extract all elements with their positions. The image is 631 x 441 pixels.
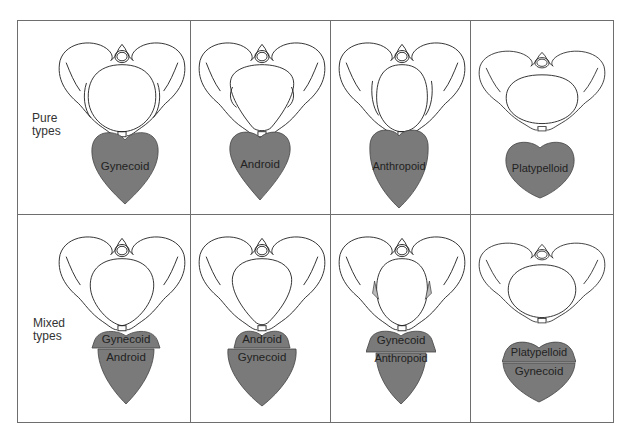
heart-shape-platypelloid: Platypelloid	[504, 140, 576, 200]
mixed-bottom-label: Gynecoid	[226, 351, 298, 363]
pelvis-mixed-illustration	[56, 224, 188, 336]
cell-pure-gynecoid: Gynecoid	[50, 22, 190, 216]
pelvis-platypelloid-illustration	[476, 30, 608, 142]
cell-mixed-gynecoid-anthropoid: Gynecoid Anthropoid	[330, 216, 470, 410]
pelvis-anthropoid-illustration	[336, 30, 468, 142]
cell-pure-anthropoid: Anthropoid	[330, 22, 470, 216]
pelvis-type-label: Android	[228, 158, 292, 170]
pelvis-mixed-illustration	[196, 224, 328, 336]
mixed-top-label: Gynecoid	[366, 334, 436, 346]
cell-mixed-gynecoid-android: Gynecoid Android	[50, 216, 190, 410]
heart-shape-anthropoid: Anthropoid	[368, 128, 430, 210]
mixed-top-label: Gynecoid	[90, 333, 162, 345]
mixed-bottom-label: Anthropoid	[366, 352, 436, 364]
heart-shape-mixed: Gynecoid Anthropoid	[366, 330, 436, 406]
pelvis-type-label: Gynecoid	[90, 160, 160, 172]
pelvis-mixed-illustration	[476, 224, 608, 336]
mixed-top-label: Android	[226, 333, 298, 345]
cell-pure-platypelloid: Platypelloid	[470, 22, 610, 216]
cell-mixed-platypelloid-gynecoid: Platypelloid Gynecoid	[470, 216, 610, 410]
pelvis-android-illustration	[196, 30, 328, 142]
pelvis-gynecoid-illustration	[56, 30, 188, 142]
mixed-top-label: Platypelloid	[502, 346, 576, 358]
heart-shape-mixed: Platypelloid Gynecoid	[502, 340, 576, 404]
heart-shape-android: Android	[228, 130, 292, 202]
heart-shape-gynecoid: Gynecoid	[90, 130, 160, 206]
heart-shape-mixed: Android Gynecoid	[226, 330, 298, 408]
pelvis-type-label: Platypelloid	[504, 162, 576, 174]
pelvis-type-label: Anthropoid	[368, 160, 430, 172]
cell-mixed-android-gynecoid: Android Gynecoid	[190, 216, 330, 410]
mixed-bottom-label: Android	[90, 351, 162, 363]
mixed-bottom-label: Gynecoid	[502, 365, 576, 377]
cell-pure-android: Android	[190, 22, 330, 216]
pelvis-mixed-illustration	[336, 224, 468, 336]
heart-shape-mixed: Gynecoid Android	[90, 330, 162, 406]
